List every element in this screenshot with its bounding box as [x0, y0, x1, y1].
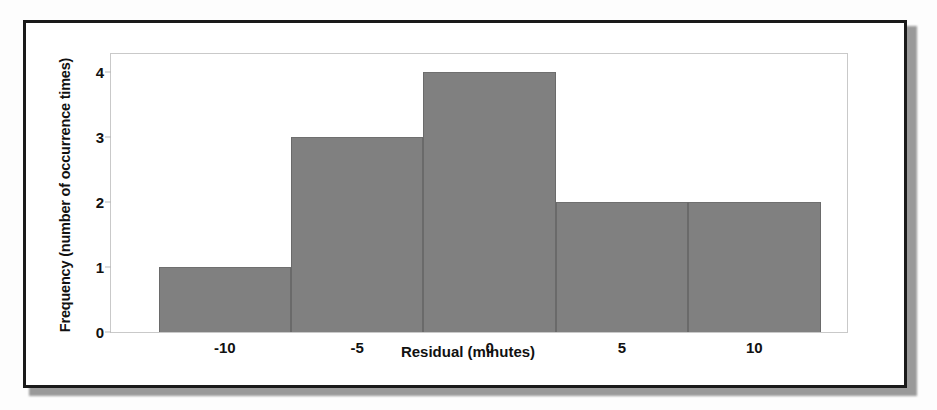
bar: [556, 202, 688, 332]
bar: [291, 137, 423, 332]
y-axis-title: Frequency (number of occurrence times): [57, 50, 73, 340]
histogram-chart: Frequency (number of occurrence times) 0…: [26, 23, 910, 391]
y-tick-mark: [105, 137, 111, 138]
y-tick-mark: [105, 267, 111, 268]
y-tick-label: 1: [96, 259, 104, 276]
x-axis-title: Residual (minutes): [26, 343, 910, 360]
y-tick-label: 3: [96, 129, 104, 146]
bar: [688, 202, 820, 332]
figure-page: Frequency (number of occurrence times) 0…: [0, 0, 937, 410]
bar: [423, 72, 555, 332]
bar: [159, 267, 291, 332]
y-tick-label: 2: [96, 194, 104, 211]
plot-area: 01234-10-50510: [110, 53, 848, 333]
y-tick-label: 0: [96, 324, 104, 341]
y-tick-mark: [105, 202, 111, 203]
bar-series: [111, 54, 847, 332]
y-tick-mark: [105, 72, 111, 73]
y-tick-mark: [105, 332, 111, 333]
figure-border: Frequency (number of occurrence times) 0…: [23, 20, 907, 388]
y-tick-label: 4: [96, 64, 104, 81]
